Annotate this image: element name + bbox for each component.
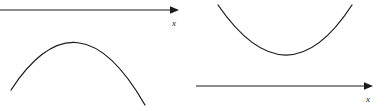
left-panel-svg: x [0,0,194,111]
panel-right-parabola: x [194,0,388,111]
panel-left-parabola: x [0,0,194,111]
x-axis-arrowhead-left [170,6,179,14]
x-axis-label-left: x [171,18,176,28]
figure-root: x x [0,0,388,111]
parabola-curve-down [11,42,145,105]
right-panel-svg: x [194,0,388,111]
parabola-curve-up [218,5,352,55]
x-axis-label-right: x [365,94,370,104]
x-axis-arrowhead-right [364,82,373,90]
